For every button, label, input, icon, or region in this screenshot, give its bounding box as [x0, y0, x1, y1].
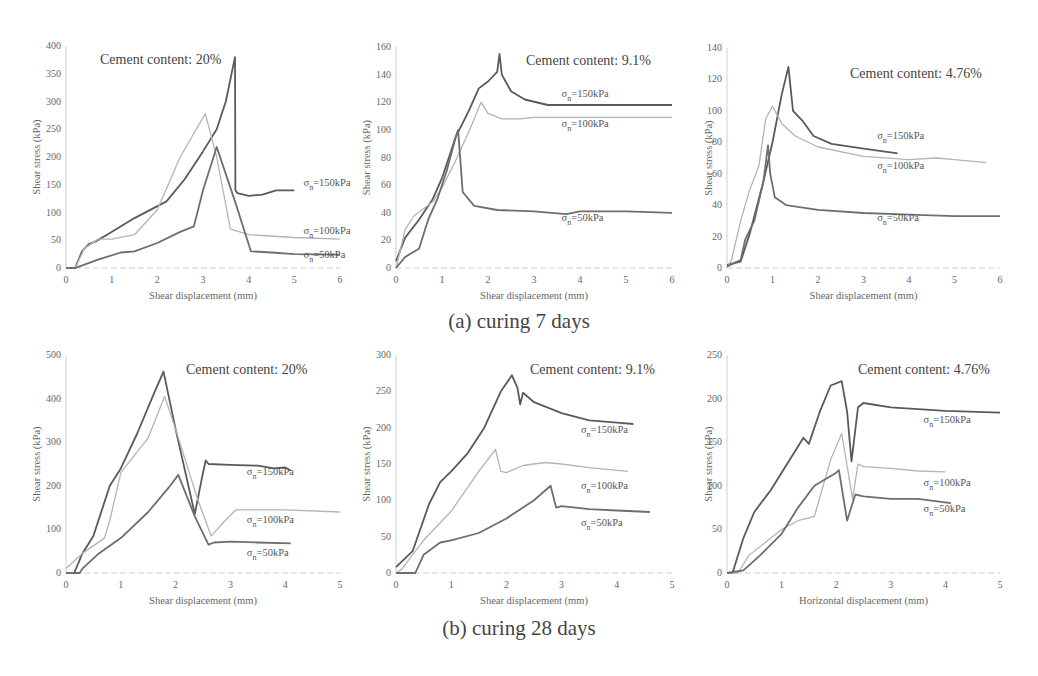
x-tick-label: 4 — [907, 274, 912, 285]
x-tick-label: 2 — [504, 579, 509, 590]
series-label-s100: σn=100kPa — [924, 477, 971, 492]
caption-row-a: (a) curing 7 days — [319, 309, 719, 334]
series-label-s150: σn=150kPa — [562, 88, 609, 103]
x-axis-label: Horizontal displacement (mm) — [799, 595, 928, 607]
x-tick-label: 3 — [201, 274, 206, 285]
x-tick-label: 3 — [559, 579, 564, 590]
x-tick-label: 5 — [624, 274, 629, 285]
series-label-s100: σn=100kPa — [247, 514, 294, 529]
y-axis-label: Shear stress (kPa) — [703, 120, 715, 196]
y-tick-label: 160 — [376, 41, 391, 52]
y-tick-label: 80 — [381, 152, 391, 163]
x-tick-label: 1 — [770, 274, 775, 285]
series-label-s150: σn=150kPa — [247, 466, 294, 481]
x-tick-label: 4 — [614, 579, 619, 590]
y-tick-label: 20 — [712, 231, 722, 242]
chart-panel-a3: 0123456020406080100120140Shear displacem… — [703, 42, 1003, 302]
y-tick-label: 100 — [707, 105, 722, 116]
series-line-s150 — [66, 57, 294, 268]
y-tick-label: 20 — [381, 234, 391, 245]
y-tick-label: 300 — [376, 349, 391, 360]
series-line-s100 — [727, 106, 986, 268]
y-tick-label: 100 — [376, 494, 391, 505]
y-tick-label: 100 — [376, 124, 391, 135]
series-line-s150 — [396, 375, 633, 567]
series-label-s100: σn=100kPa — [303, 225, 350, 240]
y-tick-label: 50 — [51, 234, 61, 245]
y-tick-label: 0 — [717, 567, 722, 578]
caption-row-b: (b) curing 28 days — [319, 616, 719, 641]
x-tick-label: 3 — [888, 579, 893, 590]
x-tick-label: 4 — [578, 274, 583, 285]
series-label-s150: σn=150kPa — [303, 177, 350, 192]
panel-title: Cement content: 20% — [186, 362, 308, 377]
x-tick-label: 3 — [861, 274, 866, 285]
series-label-s50: σn=50kPa — [924, 503, 966, 518]
y-tick-label: 140 — [376, 69, 391, 80]
x-tick-label: 2 — [834, 579, 839, 590]
y-tick-label: 200 — [707, 393, 722, 404]
x-tick-label: 5 — [998, 579, 1003, 590]
x-tick-label: 0 — [64, 579, 69, 590]
x-tick-label: 2 — [173, 579, 178, 590]
panel-title: Cement content: 9.1% — [530, 362, 655, 377]
series-label-s150: σn=150kPa — [924, 414, 971, 429]
x-tick-label: 0 — [64, 274, 69, 285]
y-tick-label: 60 — [381, 179, 391, 190]
series-label-s50: σn=50kPa — [303, 249, 345, 264]
x-tick-label: 2 — [816, 274, 821, 285]
series-label-s150: σn=150kPa — [581, 424, 628, 439]
panel-title: Cement content: 4.76% — [858, 362, 990, 377]
figure-canvas: 0123456050100150200250300350400Shear dis… — [0, 0, 1038, 676]
chart-panel-b1: 0123450100200300400500Shear displacement… — [31, 349, 343, 607]
x-axis-label: Shear displacement (mm) — [480, 290, 588, 302]
y-axis-label: Shear stress (kPa) — [361, 426, 373, 502]
y-axis-label: Shear stress (kPa) — [361, 119, 373, 195]
y-tick-label: 250 — [376, 385, 391, 396]
x-axis-label: Shear displacement (mm) — [810, 290, 918, 302]
panel-title: Cement content: 4.76% — [850, 66, 982, 81]
y-tick-label: 140 — [707, 42, 722, 53]
chart-panel-b3: 012345050100150200250Horizontal displace… — [703, 349, 1003, 607]
y-tick-label: 250 — [707, 349, 722, 360]
x-tick-label: 2 — [486, 274, 491, 285]
y-tick-label: 0 — [717, 262, 722, 273]
series-line-s150 — [396, 54, 672, 261]
x-tick-label: 5 — [670, 579, 675, 590]
y-tick-label: 150 — [376, 458, 391, 469]
x-tick-label: 5 — [292, 274, 297, 285]
panel-title: Cement content: 9.1% — [526, 53, 651, 68]
x-tick-label: 1 — [118, 579, 123, 590]
y-tick-label: 120 — [707, 73, 722, 84]
x-tick-label: 0 — [725, 579, 730, 590]
x-tick-label: 0 — [725, 274, 730, 285]
y-tick-label: 50 — [712, 523, 722, 534]
chart-panel-a1: 0123456050100150200250300350400Shear dis… — [31, 40, 351, 302]
x-axis-label: Shear displacement (mm) — [480, 595, 588, 607]
series-line-s100 — [66, 396, 340, 568]
x-tick-label: 3 — [228, 579, 233, 590]
y-tick-label: 0 — [56, 567, 61, 578]
series-line-s100 — [396, 450, 628, 574]
y-tick-label: 200 — [46, 480, 61, 491]
x-tick-label: 6 — [338, 274, 343, 285]
x-tick-label: 1 — [109, 274, 114, 285]
x-tick-label: 1 — [779, 579, 784, 590]
x-tick-label: 3 — [532, 274, 537, 285]
y-tick-label: 100 — [46, 207, 61, 218]
y-tick-label: 120 — [376, 96, 391, 107]
x-tick-label: 6 — [998, 274, 1003, 285]
y-axis-label: Shear stress (kPa) — [31, 426, 43, 502]
x-tick-label: 4 — [246, 274, 251, 285]
chart-panel-a2: 0123456020406080100120140160Shear displa… — [361, 41, 675, 302]
series-label-s150: σn=150kPa — [877, 130, 924, 145]
x-axis-label: Shear displacement (mm) — [149, 290, 257, 302]
x-tick-label: 0 — [394, 579, 399, 590]
series-label-s50: σn=50kPa — [581, 517, 623, 532]
series-label-s100: σn=100kPa — [562, 118, 609, 133]
panel-title: Cement content: 20% — [100, 52, 222, 67]
y-axis-label: Shear stress (kPa) — [703, 426, 715, 502]
x-tick-label: 4 — [283, 579, 288, 590]
x-tick-label: 5 — [952, 274, 957, 285]
series-line-s50 — [727, 470, 951, 573]
